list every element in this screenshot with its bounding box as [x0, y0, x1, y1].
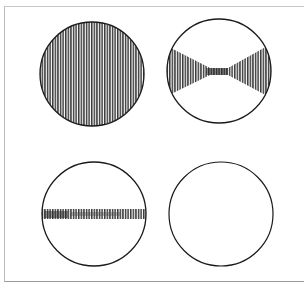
- panel-bowtie-hatch: [167, 19, 271, 123]
- optical-patterns-diagram: [0, 0, 304, 284]
- panel-full-hatch: [40, 22, 144, 126]
- panel-empty: [169, 162, 273, 266]
- panel-band-hatch: [42, 162, 146, 266]
